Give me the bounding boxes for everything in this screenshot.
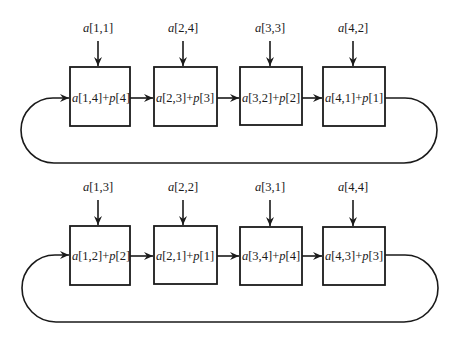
box-label: a[2,1]+p[1] (156, 249, 214, 263)
input-label: a[2,4] (168, 21, 198, 35)
row-2: a[1,3] a[2,2] a[3,1] a[4,4] a[1,2]+p[2] … (22, 180, 438, 322)
input-label: a[3,3] (255, 21, 285, 35)
input-label: a[1,1] (83, 21, 113, 35)
box-label: a[4,1]+p[1] (325, 91, 383, 105)
row-1: a[1,1] a[2,4] a[3,3] a[4,2] a[1,4]+p[4] … (21, 21, 437, 163)
input-label: a[4,2] (338, 21, 368, 35)
input-label: a[1,3] (83, 180, 113, 194)
box-label: a[1,4]+p[4] (72, 91, 130, 105)
input-label: a[3,1] (255, 180, 285, 194)
ring-diagram: a[1,1] a[2,4] a[3,3] a[4,2] a[1,4]+p[4] … (0, 0, 457, 341)
input-label: a[2,2] (168, 180, 198, 194)
box-label: a[4,3]+p[3] (325, 249, 383, 263)
box-label: a[2,3]+p[3] (156, 91, 214, 105)
box-label: a[3,4]+p[4] (242, 249, 300, 263)
box-label: a[3,2]+p[2] (242, 91, 300, 105)
input-label: a[4,4] (338, 180, 368, 194)
box-label: a[1,2]+p[2] (72, 249, 130, 263)
